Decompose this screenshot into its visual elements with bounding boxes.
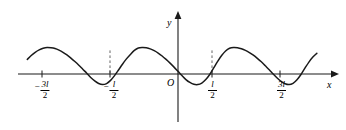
tick-denominator: 2 [42,91,49,101]
tick-label-pos-l-2: l 2 [207,80,217,101]
tick-numerator: 3l [41,80,50,90]
tick-denominator: 2 [111,91,118,101]
tick-fraction: 3l 2 [41,80,50,101]
tick-minus-sign: − [103,82,108,91]
y-axis-label: y [167,18,171,28]
tick-minus-sign: − [34,82,39,91]
tick-denominator: 2 [209,91,216,101]
tick-numerator: 3l [277,80,286,90]
tick-label-pos-3l-2: 3l 2 [276,80,286,101]
x-axis-label: x [327,80,331,90]
tick-numerator: l [112,80,117,90]
y-axis-arrowhead [175,11,182,19]
origin-label: O [167,78,174,88]
math-figure: y x O − 3l 2 − l 2 l 2 3l 2 [0,0,346,130]
tick-fraction: 3l 2 [277,80,286,101]
tick-denominator: 2 [278,91,285,101]
plot-canvas [0,0,346,130]
tick-label-neg-l-2: − l 2 [103,80,118,101]
tick-fraction: l 2 [208,80,217,101]
x-axis-arrowhead [331,71,339,78]
tick-fraction: l 2 [110,80,119,101]
tick-label-neg-3l-2: − 3l 2 [34,80,49,101]
tick-numerator: l [210,80,215,90]
